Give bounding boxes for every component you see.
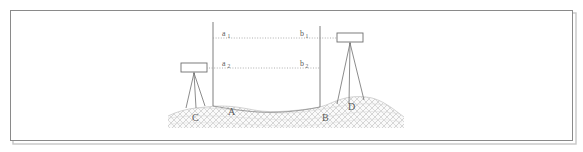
reading-b1-subscript: 1 — [306, 33, 309, 39]
reading-a2-subscript: 2 — [228, 63, 231, 69]
reading-b2-base: b — [300, 59, 304, 68]
reading-b2-subscript: 2 — [306, 63, 309, 69]
levelling-diagram: a 1 b 1 a 2 b 2 C A B D — [0, 0, 583, 152]
reading-a1-subscript: 1 — [228, 33, 231, 39]
point-label-a: A — [228, 106, 236, 117]
point-label-b: B — [322, 112, 329, 123]
point-label-d: D — [348, 101, 355, 112]
point-label-c: C — [192, 112, 199, 123]
reading-b1-base: b — [300, 29, 304, 38]
level-body-left — [181, 63, 207, 72]
level-body-right — [337, 33, 363, 42]
reading-a2-base: a — [222, 59, 226, 68]
figure-container: a 1 b 1 a 2 b 2 C A B D — [0, 0, 583, 152]
reading-a1-base: a — [222, 29, 226, 38]
